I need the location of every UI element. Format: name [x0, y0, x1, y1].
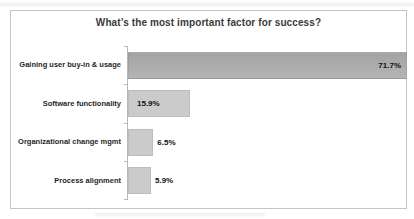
- axis-tick: [124, 123, 128, 124]
- bar-gaining-user-buy-in: 71.7%: [128, 52, 407, 79]
- chart-title: What’s the most important factor for suc…: [11, 17, 406, 28]
- category-label: Gaining user buy-in & usage: [11, 46, 121, 85]
- category-label: Organizational change mgmt: [11, 123, 121, 162]
- value-label: 71.7%: [378, 53, 401, 78]
- axis-tick: [124, 199, 128, 200]
- chart-image: What’s the most important factor for suc…: [0, 0, 414, 219]
- chart-frame: What’s the most important factor for suc…: [10, 10, 407, 209]
- category-label: Process alignment: [11, 162, 121, 201]
- axis-tick: [124, 84, 128, 85]
- bar-process-alignment: 5.9%: [128, 167, 151, 194]
- scan-artifact-top: [0, 3, 414, 6]
- value-label: 5.9%: [155, 168, 173, 193]
- bar-organizational-change-mgmt: 6.5%: [128, 129, 153, 156]
- plot-area: 71.7% 15.9% 6.5% 5.9%: [127, 46, 407, 200]
- scan-artifact-bottom: [95, 213, 265, 216]
- value-label: 6.5%: [157, 130, 175, 155]
- bar-software-functionality: 15.9%: [128, 90, 190, 117]
- category-axis-labels: Gaining user buy-in & usage Software fun…: [11, 46, 121, 200]
- category-label: Software functionality: [11, 85, 121, 124]
- axis-tick: [124, 46, 128, 47]
- axis-tick: [124, 161, 128, 162]
- value-label: 15.9%: [137, 91, 160, 116]
